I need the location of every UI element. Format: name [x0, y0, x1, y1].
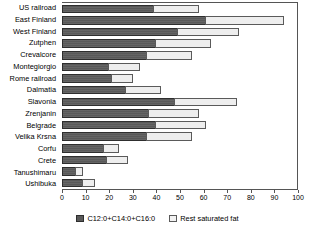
bar-row	[62, 96, 297, 108]
bar-segment-secondary[interactable]	[125, 86, 161, 95]
bar-stack[interactable]	[62, 179, 95, 188]
bar-segment-primary[interactable]	[62, 51, 147, 60]
bar-stack[interactable]	[62, 156, 128, 165]
category-label: Crete	[0, 155, 59, 167]
x-axis-tick	[298, 190, 299, 193]
bar-stack[interactable]	[62, 167, 83, 176]
bar-stack[interactable]	[62, 98, 237, 107]
bar-segment-primary[interactable]	[62, 16, 206, 25]
category-label: Rome railroad	[0, 73, 59, 85]
x-axis-tick-label: 100	[292, 194, 304, 201]
stacked-bar-chart: US railroadEast FinlandWest FinlandZutph…	[0, 0, 315, 241]
bar-segment-primary[interactable]	[62, 109, 149, 118]
category-label: Dalmatia	[0, 84, 59, 96]
bar-segment-primary[interactable]	[62, 132, 147, 141]
bar-stack[interactable]	[62, 39, 211, 48]
bar-row	[62, 26, 297, 38]
bar-segment-secondary[interactable]	[108, 63, 140, 72]
x-axis-tick-label: 10	[82, 194, 90, 201]
bar-stack[interactable]	[62, 86, 161, 95]
category-label: Crevalcore	[0, 49, 59, 61]
bar-row	[62, 154, 297, 166]
bar-segment-primary[interactable]	[62, 121, 156, 130]
bar-stack[interactable]	[62, 16, 284, 25]
x-axis-tick	[156, 190, 157, 193]
bar-row	[62, 131, 297, 143]
plot-wrapper: US railroadEast FinlandWest FinlandZutph…	[0, 0, 315, 196]
bar-stack[interactable]	[62, 51, 192, 60]
bar-segment-secondary[interactable]	[205, 16, 284, 25]
x-axis-tick-label: 20	[105, 194, 113, 201]
x-axis-tick	[109, 190, 110, 193]
x-axis-tick	[180, 190, 181, 193]
bar-series-container	[62, 3, 297, 189]
bar-stack[interactable]	[62, 74, 133, 83]
bar-segment-secondary[interactable]	[146, 51, 192, 60]
bar-row	[62, 38, 297, 50]
bar-row	[62, 15, 297, 27]
bar-stack[interactable]	[62, 63, 140, 72]
bar-segment-primary[interactable]	[62, 5, 154, 14]
bar-segment-primary[interactable]	[62, 98, 175, 107]
bar-segment-primary[interactable]	[62, 39, 156, 48]
bar-row	[62, 166, 297, 178]
bar-segment-secondary[interactable]	[153, 5, 199, 14]
light-swatch-icon	[169, 215, 177, 222]
bar-row	[62, 3, 297, 15]
bar-stack[interactable]	[62, 121, 206, 130]
category-label: West Finland	[0, 26, 59, 38]
x-axis-tick	[251, 190, 252, 193]
bar-segment-primary[interactable]	[62, 74, 112, 83]
x-axis-tick-label: 0	[60, 194, 64, 201]
x-axis: 0102030405060708090100	[62, 190, 298, 210]
bar-segment-primary[interactable]	[62, 179, 83, 188]
category-label: Montegiorgio	[0, 61, 59, 73]
bar-segment-secondary[interactable]	[106, 156, 128, 165]
x-axis-tick-label: 40	[152, 194, 160, 201]
category-label: Velika Krsna	[0, 131, 59, 143]
bar-segment-secondary[interactable]	[177, 28, 239, 37]
dark-swatch-icon	[76, 215, 84, 222]
bar-segment-secondary[interactable]	[155, 39, 210, 48]
bar-segment-secondary[interactable]	[174, 98, 236, 107]
category-label: Zutphen	[0, 37, 59, 49]
bar-segment-primary[interactable]	[62, 144, 104, 153]
x-axis-tick-label: 50	[176, 194, 184, 201]
x-axis-tick	[204, 190, 205, 193]
bar-stack[interactable]	[62, 109, 199, 118]
bar-segment-secondary[interactable]	[82, 179, 95, 188]
bar-stack[interactable]	[62, 132, 192, 141]
bar-segment-primary[interactable]	[62, 86, 126, 95]
x-axis-tick-label: 90	[270, 194, 278, 201]
category-label: Belgrade	[0, 120, 59, 132]
x-axis-tick-label: 30	[129, 194, 137, 201]
x-axis-tick-label: 80	[247, 194, 255, 201]
category-label: Slavonia	[0, 96, 59, 108]
bar-stack[interactable]	[62, 28, 239, 37]
category-label: Tanushimaru	[0, 167, 59, 179]
bar-row	[62, 143, 297, 155]
bar-row	[62, 61, 297, 73]
bar-stack[interactable]	[62, 144, 119, 153]
bar-stack[interactable]	[62, 5, 199, 14]
bar-row	[62, 50, 297, 62]
bar-segment-secondary[interactable]	[75, 167, 83, 176]
bar-row	[62, 84, 297, 96]
x-axis-tick	[227, 190, 228, 193]
x-axis-tick	[274, 190, 275, 193]
bar-segment-primary[interactable]	[62, 28, 178, 37]
bar-row	[62, 177, 297, 189]
bar-segment-secondary[interactable]	[103, 144, 118, 153]
category-label: US railroad	[0, 2, 59, 14]
bar-segment-secondary[interactable]	[146, 132, 192, 141]
category-label: East Finland	[0, 14, 59, 26]
category-axis-labels: US railroadEast FinlandWest FinlandZutph…	[0, 2, 59, 190]
bar-segment-primary[interactable]	[62, 156, 107, 165]
bar-segment-primary[interactable]	[62, 167, 76, 176]
chart-legend: C12:0+C14:0+C16:0 Rest saturated fat	[0, 214, 315, 223]
bar-segment-secondary[interactable]	[155, 121, 206, 130]
bar-segment-secondary[interactable]	[148, 109, 199, 118]
category-label: Zrenjanin	[0, 108, 59, 120]
bar-segment-secondary[interactable]	[111, 74, 133, 83]
bar-segment-primary[interactable]	[62, 63, 109, 72]
